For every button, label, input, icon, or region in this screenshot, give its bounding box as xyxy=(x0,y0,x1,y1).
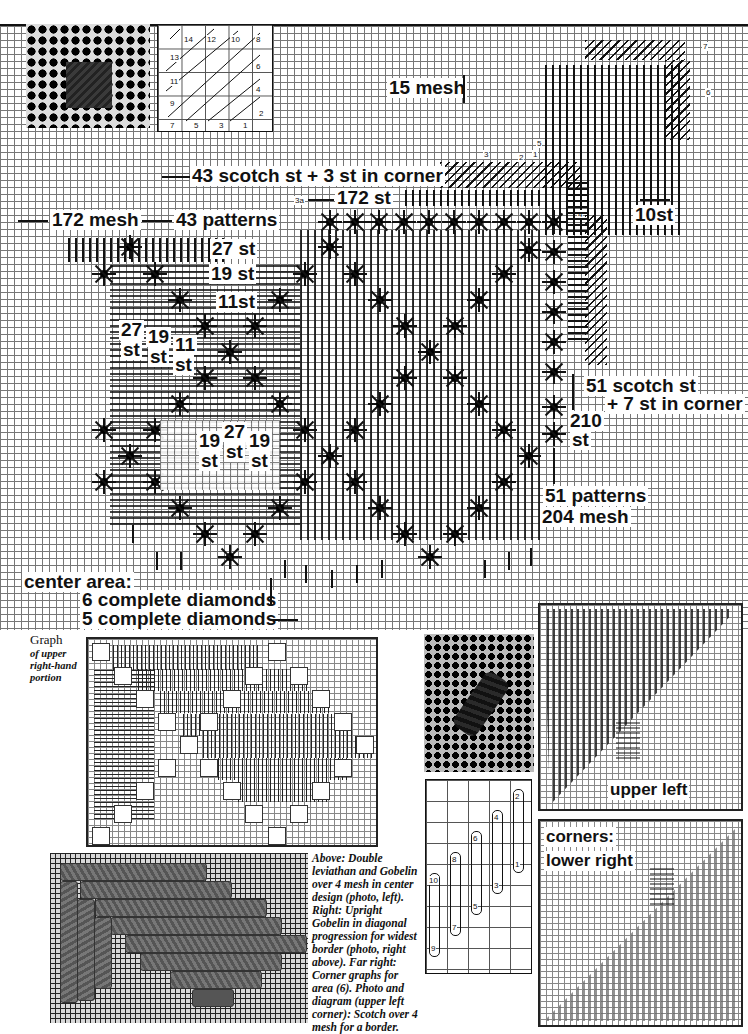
gobelin-upright-left xyxy=(68,238,228,262)
corner-graph-upper-left: upper left xyxy=(538,603,743,811)
diagram-number: 10 xyxy=(230,35,241,44)
label-7-st-corner: + 7 st in corner xyxy=(605,394,745,414)
photo-caption: Above: Double leviathan and Gobelin over… xyxy=(312,852,420,1034)
label-center-27-b: st xyxy=(224,442,245,462)
label-left-27-a: 27 xyxy=(119,320,144,340)
diagram-number: 9 xyxy=(169,99,175,108)
label-51-patterns: 51 patterns xyxy=(543,486,648,506)
label-center-27-a: 27 xyxy=(222,422,247,442)
diagram-number: 7 xyxy=(169,121,175,130)
diagram-number: 7 xyxy=(451,923,457,932)
label-center-19b-a: 19 xyxy=(247,431,272,451)
label-center-19b-b: st xyxy=(249,451,270,471)
diagram-number: 1 xyxy=(514,860,520,869)
diagram-number: 5 xyxy=(472,902,478,911)
label-10-st: 10st xyxy=(633,205,675,225)
diagram-number: 6 xyxy=(255,62,261,71)
diagram-number: 4 xyxy=(255,85,261,94)
label-172-st: 172 st xyxy=(335,188,393,208)
arrow-43-scotch xyxy=(162,176,190,178)
arrow-172-st xyxy=(308,199,334,201)
arrow-10-st xyxy=(640,199,670,201)
diagram-number: 6 xyxy=(472,834,478,843)
horizontal-gobelin-right xyxy=(568,180,588,340)
arrow-172-mesh xyxy=(18,220,48,222)
diagram-number: 8 xyxy=(451,855,457,864)
label-210-st: st xyxy=(570,430,591,450)
label-lower-right: lower right xyxy=(544,851,635,871)
area-number-1: 1 xyxy=(532,150,538,159)
label-left-27-b: st xyxy=(121,340,142,360)
arrow-51-patterns xyxy=(553,448,555,484)
diagram-number: 9 xyxy=(430,944,436,953)
label-left-11-a: 11 xyxy=(173,335,197,355)
scotch-border-right xyxy=(585,215,607,365)
arrow-15-mesh xyxy=(463,75,465,103)
label-corners: corners: xyxy=(544,827,616,847)
label-15-mesh: 15 mesh xyxy=(387,78,467,98)
gobelin-row-172 xyxy=(405,190,575,206)
label-11-st-row: 11st xyxy=(216,292,257,312)
label-left-19-a: 19 xyxy=(146,327,171,347)
diagram-number: 3 xyxy=(218,121,224,130)
scotch-border-top xyxy=(440,162,580,188)
label-center-19a-a: 19 xyxy=(197,431,222,451)
arrow-5-diamonds xyxy=(272,619,298,621)
gobelin-stitch-diagram: 2 1 4 3 6 5 8 7 10 9 xyxy=(425,779,532,974)
diagram-number: 1 xyxy=(242,121,248,130)
label-3a: 3a xyxy=(294,196,305,205)
upper-right-portion-graph xyxy=(86,637,378,847)
diagram-number: 4 xyxy=(493,813,499,822)
label-19-st-row: 19 st xyxy=(209,264,256,284)
upper-left-stitch-pattern-icon xyxy=(540,605,741,809)
label-left-11-b: st xyxy=(173,355,194,375)
diagram-number: 10 xyxy=(428,876,439,885)
scotch-stitch-diagram: 14 12 10 8 13 6 11 4 9 2 7 5 3 1 xyxy=(157,24,273,132)
diagram-number: 3 xyxy=(493,881,499,890)
diagram-number: 2 xyxy=(514,792,520,801)
arrow-43-patterns xyxy=(142,220,172,222)
label-210: 210 xyxy=(568,411,604,431)
label-204-mesh: 204 mesh xyxy=(540,507,631,527)
area-number-5: 5 xyxy=(536,139,542,148)
diagram-number: 11 xyxy=(169,77,179,86)
label-43-scotch: 43 scotch st + 3 st in corner xyxy=(190,166,445,186)
scotch-stitch-sample xyxy=(66,62,112,108)
diagram-number: 5 xyxy=(193,121,199,130)
leviathan-gobelin-photo xyxy=(50,853,308,1023)
diagram-number: 12 xyxy=(206,35,217,44)
corner-graph-lower-right: corners: lower right xyxy=(538,819,743,1027)
arrow-6-diamonds xyxy=(270,578,272,606)
diagram-number: 2 xyxy=(258,109,264,118)
label-5-diamonds: 5 complete diamonds xyxy=(80,609,278,629)
area-7-stitches xyxy=(585,40,685,60)
diagram-number: 14 xyxy=(183,35,194,44)
label-left-19-b: st xyxy=(148,347,169,367)
area-number-6: 6 xyxy=(705,88,711,97)
label-upper-left: upper left xyxy=(608,780,689,800)
graph-caption-subtitle: of upper right-hand portion xyxy=(30,648,80,684)
area-number-2: 2 xyxy=(518,153,524,162)
label-27-st-row: 27 st xyxy=(210,239,257,259)
diagram-number: 13 xyxy=(169,53,180,62)
area-number-7: 7 xyxy=(702,42,708,51)
label-6-diamonds: 6 complete diamonds xyxy=(80,590,278,610)
label-center-19a-b: st xyxy=(199,451,220,471)
arrow-51-scotch xyxy=(572,374,574,410)
diagram-number: 8 xyxy=(255,35,261,44)
graph-caption-title: Graph xyxy=(30,632,63,648)
label-172-mesh: 172 mesh xyxy=(50,210,141,230)
label-43-patterns: 43 patterns xyxy=(174,210,279,230)
area-number-3: 3 xyxy=(483,150,489,159)
area-6-stitches xyxy=(665,60,690,140)
